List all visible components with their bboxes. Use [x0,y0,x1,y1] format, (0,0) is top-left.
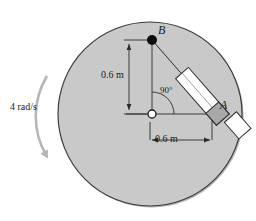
angular-velocity-arrow [36,76,47,155]
point-b-marker [147,35,157,45]
center-pivot [148,110,156,118]
vertical-dimension-label: 0.6 m [101,70,124,80]
mechanism-diagram-svg [0,0,256,221]
angle-label: 90° [160,86,173,95]
point-b-label: B [158,24,165,36]
horizontal-dimension-label: 0.6 m [155,134,178,144]
angular-velocity-label: 4 rad/s [10,102,37,112]
figure-canvas: B A 90° 0.6 m 0.6 m 4 rad/s [0,0,256,221]
point-a-label: A [220,99,227,111]
